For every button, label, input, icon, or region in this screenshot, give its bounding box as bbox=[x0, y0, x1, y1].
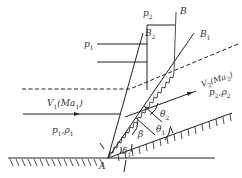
theta2-arc bbox=[150, 103, 158, 115]
shock-line-B2 bbox=[108, 33, 143, 158]
label-theta1: θ1 bbox=[156, 125, 165, 136]
label-V1: V1(Ma1) bbox=[47, 99, 83, 110]
label-delta1: δ1 bbox=[122, 147, 131, 158]
label-p2-rho2: p2,ρ2 bbox=[209, 88, 231, 99]
ground-hatching bbox=[10, 159, 103, 166]
label-A: A bbox=[99, 162, 106, 171]
label-p1-rho1: p1,ρ1 bbox=[52, 126, 74, 137]
label-theta2: θ2 bbox=[160, 110, 169, 121]
label-p2-top: p2 bbox=[143, 9, 153, 20]
label-B1: B1 bbox=[200, 30, 210, 41]
label-B: B bbox=[180, 7, 187, 16]
label-beta: β bbox=[138, 130, 143, 139]
label-p1-left: p1 bbox=[84, 40, 94, 51]
wedge-hatching bbox=[118, 114, 231, 161]
shock-line-B1 bbox=[108, 33, 194, 158]
label-B2: B2 bbox=[145, 29, 155, 40]
